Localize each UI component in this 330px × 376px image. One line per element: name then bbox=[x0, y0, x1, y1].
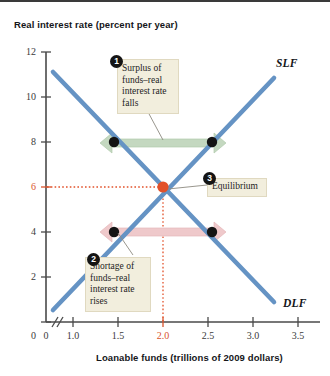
loanable-funds-figure: Real interest rate (percent per year) bbox=[0, 0, 330, 376]
y-tick-label-8: 8 bbox=[16, 136, 36, 147]
y-tick-label-10: 10 bbox=[16, 91, 36, 102]
callout-badge-1: 1 bbox=[110, 55, 123, 68]
x-tick-label-3-0: 3.0 bbox=[240, 330, 266, 341]
callout-surplus: Surplus of funds–real interest rate fall… bbox=[117, 59, 179, 114]
y-tick-label-6: 6 bbox=[16, 181, 36, 192]
y-tick-label-4: 4 bbox=[16, 226, 36, 237]
callout-equilibrium: Equilibrium bbox=[207, 178, 267, 197]
y-tick-label-2: 2 bbox=[16, 271, 36, 282]
x-tick-label-1-5: 1.5 bbox=[105, 330, 131, 341]
marker-dot-slf-4 bbox=[207, 227, 217, 237]
equilibrium-dot bbox=[157, 181, 168, 192]
marker-dot-slf-8 bbox=[109, 137, 119, 147]
x-axis-title: Loanable funds (trillions of 2009 dollar… bbox=[96, 352, 283, 363]
x-tick-label-2-0: 2.0 bbox=[150, 330, 176, 341]
x-tick-label-3-5: 3.5 bbox=[285, 330, 311, 341]
callout-badge-2: 2 bbox=[87, 253, 100, 266]
x-tick-label-1-0: 1.0 bbox=[60, 330, 86, 341]
marker-dot-dlf-8 bbox=[207, 137, 217, 147]
marker-dot-dlf-4 bbox=[109, 227, 119, 237]
curve-label-dlf: DLF bbox=[283, 297, 307, 309]
curve-label-slf: SLF bbox=[276, 57, 298, 69]
leader-line-1 bbox=[148, 112, 163, 140]
x-tick-label-0: 0 bbox=[33, 330, 59, 341]
x-tick-label-2-5: 2.5 bbox=[195, 330, 221, 341]
y-tick-label-12: 12 bbox=[16, 46, 36, 57]
callout-badge-3: 3 bbox=[203, 172, 216, 185]
